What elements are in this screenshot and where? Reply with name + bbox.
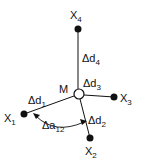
- label-angle-a12: Δa12: [42, 119, 65, 134]
- label-d2: Δd2: [88, 114, 106, 129]
- node-x2-dot: [87, 135, 94, 142]
- node-x3-dot: [111, 94, 118, 101]
- label-d1: Δd1: [28, 94, 46, 109]
- label-m: M: [59, 83, 68, 95]
- label-x2: X2: [85, 145, 97, 160]
- node-x4-dot: [75, 26, 82, 33]
- label-x3: X3: [120, 92, 132, 107]
- label-x1: X1: [4, 112, 16, 127]
- label-d3: Δd3: [83, 77, 101, 92]
- star-diagram: M X4 X3 X1 X2 Δd4 Δd3 Δd1 Δd2 Δa12: [0, 0, 141, 164]
- arrowhead-left-icon: [33, 113, 40, 119]
- label-x4: X4: [70, 9, 82, 24]
- label-d4: Δd4: [82, 52, 100, 67]
- edge-d3: [84, 95, 114, 97]
- node-x1-dot: [21, 111, 28, 118]
- center-m-circle: [74, 89, 84, 99]
